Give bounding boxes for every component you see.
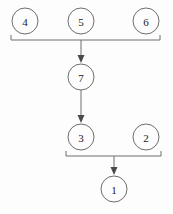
diagram-canvas: 4 5 6 7 3 2 1 [0,0,173,214]
edge-7-to-3-arrowhead-icon [78,115,85,123]
node-7[interactable]: 7 [68,64,94,90]
node-3[interactable]: 3 [68,124,94,150]
node-4-label: 4 [22,16,28,28]
node-7-label: 7 [78,72,84,84]
bracket-top [11,35,160,40]
edge-group456-to-7 [78,40,85,63]
edge-group32-to-1-arrowhead-icon [111,167,118,175]
node-2[interactable]: 2 [133,124,159,150]
edge-group456-to-7-arrowhead-icon [78,55,85,63]
edge-group32-to-1 [111,156,118,175]
node-1-label: 1 [111,184,117,196]
edge-7-to-3 [78,90,85,123]
node-1[interactable]: 1 [101,176,127,202]
bracket-bottom-path [66,151,161,156]
node-6-label: 6 [143,16,149,28]
node-5-label: 5 [78,16,84,28]
bracket-top-path [11,35,160,40]
node-6[interactable]: 6 [133,8,159,34]
diagram-svg: 4 5 6 7 3 2 1 [0,0,173,214]
node-5[interactable]: 5 [68,8,94,34]
node-4[interactable]: 4 [12,8,38,34]
node-3-label: 3 [78,132,84,144]
node-2-label: 2 [143,132,149,144]
bracket-bottom [66,151,161,156]
